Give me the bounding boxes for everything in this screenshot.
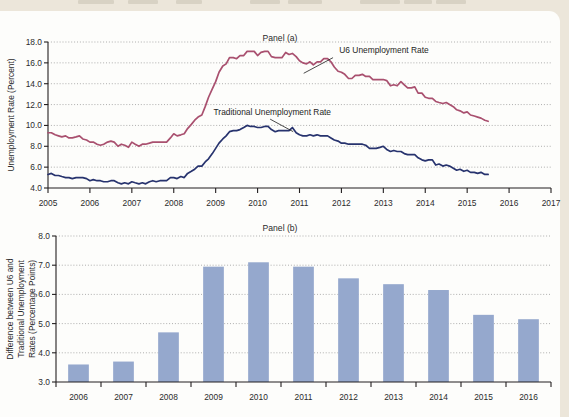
x-tick-label: 2008	[159, 392, 178, 402]
y-tick-label: 8.0	[38, 231, 50, 241]
runninghead-smudge	[436, 0, 466, 4]
annotation-traditional-label: Traditional Unemployment Rate	[214, 107, 332, 117]
x-tick-label: 2013	[384, 392, 403, 402]
bar	[383, 284, 404, 382]
panel-b-y-axis-title-line: Traditional Unemployment	[16, 260, 26, 358]
runninghead-smudge	[250, 0, 280, 4]
bar	[518, 319, 539, 382]
x-tick-label: 2011	[294, 392, 312, 402]
y-tick-label: 3.0	[38, 377, 50, 387]
bar	[473, 315, 494, 382]
x-tick-label: 2011	[290, 198, 308, 208]
x-tick-label: 2012	[332, 198, 351, 208]
bar	[248, 262, 269, 382]
x-tick-label: 2009	[206, 198, 225, 208]
x-tick-label: 2015	[458, 198, 477, 208]
panel-b-chart: 3.04.05.06.07.08.02006200720082009201020…	[0, 222, 569, 417]
series-line-traditional	[48, 125, 488, 183]
x-tick-label: 2006	[81, 198, 100, 208]
bar	[203, 267, 224, 382]
x-tick-label: 2014	[429, 392, 448, 402]
bar	[428, 290, 449, 382]
runninghead-smudge	[288, 0, 322, 4]
runninghead-smudge	[360, 0, 400, 4]
y-tick-label: 7.0	[38, 260, 50, 270]
y-tick-label: 6.0	[30, 162, 42, 172]
x-tick-label: 2013	[374, 198, 393, 208]
runninghead-smudge	[128, 0, 158, 4]
x-tick-label: 2005	[39, 198, 58, 208]
bar	[338, 278, 359, 382]
y-tick-label: 12.0	[26, 100, 43, 110]
y-tick-label: 18.0	[26, 37, 43, 47]
x-tick-label: 2014	[416, 198, 435, 208]
x-tick-label: 2016	[519, 392, 538, 402]
bar	[68, 364, 89, 382]
runninghead-smudge	[404, 0, 432, 4]
x-tick-label: 2010	[249, 392, 268, 402]
panel-b-y-axis-title-line: Rates (Percentage Points)	[27, 260, 37, 358]
panel-a-y-axis-title: Unemployment Rate (Percent)	[6, 58, 16, 171]
x-tick-label: 2006	[69, 392, 88, 402]
y-tick-label: 6.0	[38, 289, 50, 299]
runninghead-smudge	[78, 0, 114, 4]
x-tick-label: 2010	[248, 198, 267, 208]
bar	[113, 362, 134, 382]
bar	[293, 267, 314, 382]
panel-b-y-axis-title-line: Difference between U6 and	[5, 258, 15, 360]
x-tick-label: 2007	[114, 392, 133, 402]
x-tick-label: 2016	[500, 198, 519, 208]
y-tick-label: 16.0	[26, 58, 43, 68]
bar	[158, 332, 179, 382]
leader-line-u6	[304, 58, 333, 74]
y-tick-label: 10.0	[26, 120, 43, 130]
y-tick-label: 5.0	[38, 319, 50, 329]
x-tick-label: 2017	[542, 198, 561, 208]
panel-a-chart: 4.06.08.010.012.014.016.018.020052006200…	[0, 30, 569, 220]
runninghead-smudge	[176, 0, 202, 4]
x-tick-label: 2015	[474, 392, 493, 402]
x-tick-label: 2008	[164, 198, 183, 208]
x-tick-label: 2009	[204, 392, 223, 402]
y-tick-label: 8.0	[30, 141, 42, 151]
figure-page: Panel (a) Panel (b) 4.06.08.010.012.014.…	[0, 0, 569, 417]
x-tick-label: 2007	[123, 198, 142, 208]
page-top-strip	[0, 0, 569, 11]
annotation-u6-label: U6 Unemployment Rate	[339, 45, 429, 55]
y-tick-label: 14.0	[26, 79, 43, 89]
y-tick-label: 4.0	[30, 183, 42, 193]
y-tick-label: 4.0	[38, 348, 50, 358]
x-tick-label: 2012	[339, 392, 358, 402]
series-line-u6	[48, 51, 488, 147]
